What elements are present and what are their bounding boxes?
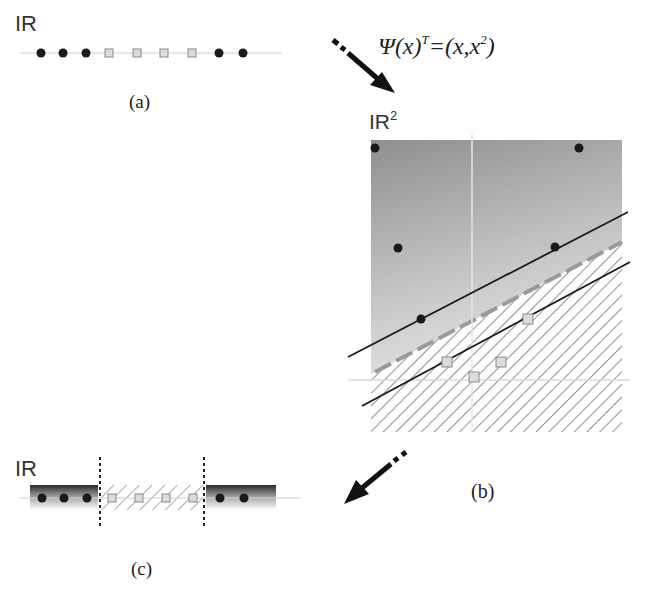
positive-class-dot (38, 494, 47, 503)
panel-a: IR (a) (15, 11, 282, 113)
formula-rhs-close: ) (485, 33, 495, 59)
arrow-map-back-to-input-space (344, 452, 406, 504)
positive-class-dot (417, 315, 426, 324)
negative-class-square (188, 49, 196, 57)
feature-space-label: IR2 (369, 108, 397, 133)
positive-class-dot (216, 494, 225, 503)
formula-psi: Ψ(x) (378, 33, 422, 59)
negative-class-square (523, 314, 533, 324)
positive-class-dot (83, 494, 92, 503)
negative-class-square (189, 494, 197, 502)
positive-class-dot (82, 49, 91, 58)
panel-c: IR (c) (15, 456, 300, 580)
positive-class-dot (59, 49, 68, 58)
positive-class-dot (240, 494, 249, 503)
negative-class-square (162, 494, 170, 502)
positive-class-dot (239, 49, 248, 58)
positive-class-dot (37, 49, 46, 58)
formula-rhs: =(x,x (429, 33, 481, 59)
positive-class-dot (575, 144, 584, 153)
negative-class-square (442, 357, 452, 367)
mapping-formula: Ψ(x)T=(x,x2) (378, 32, 495, 59)
positive-class-dot (394, 244, 403, 253)
positive-class-dot (371, 144, 380, 153)
negative-class-square (133, 49, 141, 57)
negative-class-square (160, 49, 168, 57)
svg-text:Ψ(x)T=(x,x2): Ψ(x)T=(x,x2) (378, 32, 495, 59)
negative-class-square (135, 494, 143, 502)
negative-class-square (496, 357, 506, 367)
positive-class-dot (60, 494, 69, 503)
kernel-mapping-diagram: IR (a) Ψ(x)T=(x,x2) IR2 (b) (0, 0, 653, 594)
real-line-label-a: IR (15, 11, 37, 36)
caption-b: (b) (471, 480, 494, 503)
caption-c: (c) (131, 558, 152, 580)
negative-class-square (469, 372, 479, 382)
negative-class-square (105, 49, 113, 57)
positive-class-dot (215, 49, 224, 58)
real-line-label-c: IR (15, 456, 37, 481)
caption-a: (a) (129, 91, 150, 113)
panel-b: IR2 (b) (348, 108, 630, 503)
positive-class-dot (551, 243, 560, 252)
negative-class-square (108, 494, 116, 502)
